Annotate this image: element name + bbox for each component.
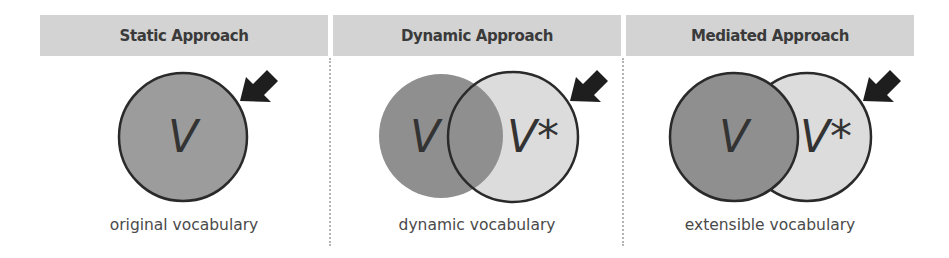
v-label: V <box>719 111 752 162</box>
v-label: V <box>168 111 201 162</box>
arrow-icon <box>240 70 278 102</box>
arrow-icon <box>570 70 608 102</box>
v-star-label: V* <box>507 111 559 162</box>
caption-extensible-vocabulary: extensible vocabulary <box>626 212 914 238</box>
mediated-venn: V V* <box>670 70 901 201</box>
v-star-label: V* <box>800 111 852 162</box>
approaches-diagram: Static Approach Dynamic Approach Mediate… <box>0 0 949 258</box>
base-vocabulary-circle <box>379 74 503 198</box>
arrow-icon <box>863 70 901 102</box>
v-label: V <box>410 111 443 162</box>
static-venn: V <box>119 70 278 201</box>
caption-original-vocabulary: original vocabulary <box>40 212 328 238</box>
dynamic-venn: V V* <box>379 70 608 202</box>
caption-dynamic-vocabulary: dynamic vocabulary <box>333 212 621 238</box>
